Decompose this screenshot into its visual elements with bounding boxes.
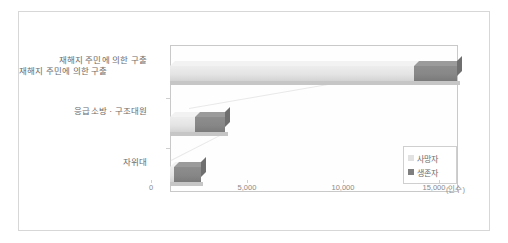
x-axis-unit-label: (인수) [446, 183, 465, 194]
legend-label: 사망자 [417, 153, 438, 164]
bar-top-face [414, 61, 462, 66]
bar-segment-survivors [195, 117, 225, 132]
dark-gray-swatch-icon [408, 169, 414, 175]
category-label-disaster-residents: 재해지 주민에 의한 구출 [44, 53, 147, 65]
bar-segment-deaths [170, 117, 195, 132]
bar-group-1 [170, 111, 470, 139]
x-axis-labels: 0 5,000 10,000 15,000 [0, 183, 508, 199]
bar-top-face [170, 61, 419, 66]
chart-legend: 사망자 생존자 [403, 146, 457, 184]
y-tick-mark [166, 98, 170, 99]
chart-figure: 재해지 주민에 의한 구출 [0, 0, 508, 243]
bar-right-face [225, 107, 230, 127]
bar-shadow [170, 81, 460, 85]
bar-right-face [457, 56, 462, 76]
bar-segment-deaths [170, 66, 414, 81]
x-tick-label-15000: 15,000 [423, 183, 446, 192]
legend-item-survivors: 생존자 [408, 165, 456, 179]
x-tick-label-0: 0 [149, 183, 153, 192]
bar-segment-survivors [414, 66, 457, 81]
x-tick-label-10000: 10,000 [332, 183, 355, 192]
bar-segment-survivors [174, 167, 201, 182]
category-label-emergency-fire-rescue: 응급소방 · 구조대원 [44, 104, 147, 116]
legend-item-deaths: 사망자 [408, 151, 456, 165]
category-label-self-defense-force: 자위대 [44, 155, 147, 167]
bar-group-0 [170, 60, 470, 88]
light-gray-swatch-icon [408, 155, 414, 161]
legend-label: 생존자 [417, 167, 438, 178]
bar-right-face [201, 157, 206, 177]
x-tick-label-5000: 5,000 [238, 183, 257, 192]
bar-shadow [170, 132, 228, 136]
y-tick-mark [166, 148, 170, 149]
